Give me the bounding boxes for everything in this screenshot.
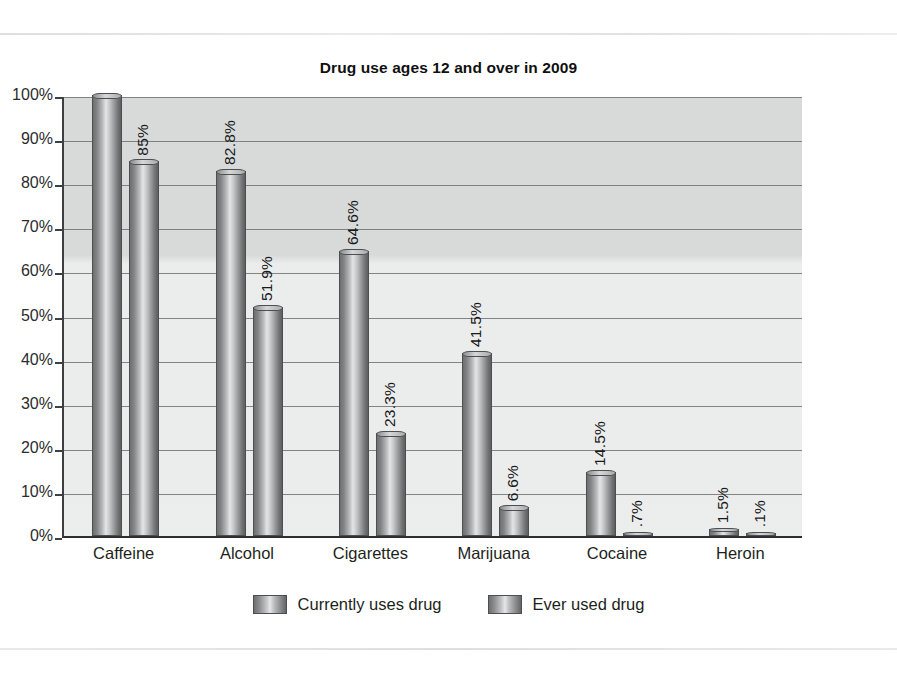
gridline — [64, 229, 802, 230]
y-axis-tick — [55, 362, 62, 364]
bar-value-label: 85% — [134, 124, 152, 156]
chart-title: Drug use ages 12 and over in 2009 — [0, 59, 897, 77]
bar — [376, 433, 406, 536]
y-axis-tick — [55, 318, 62, 320]
bar-cap — [253, 305, 283, 311]
bar-cap — [462, 351, 492, 357]
page-rule-top — [0, 33, 897, 35]
bar — [129, 161, 159, 536]
y-axis-label: 100% — [0, 86, 53, 104]
y-axis-tick — [55, 450, 62, 452]
gridline — [64, 450, 802, 451]
y-axis-tick — [55, 273, 62, 275]
bar-cap — [376, 431, 406, 437]
bar-value-label: 64.6% — [344, 200, 362, 245]
y-axis-label: 60% — [0, 262, 53, 280]
bar-cap — [92, 93, 122, 99]
y-axis-tick — [55, 185, 62, 187]
legend-label: Currently uses drug — [298, 595, 442, 614]
gridline — [64, 141, 802, 142]
y-axis-tick — [55, 97, 62, 99]
bar-cap — [129, 159, 159, 165]
x-axis-label: Cocaine — [555, 544, 678, 563]
y-axis-tick — [55, 494, 62, 496]
bar — [499, 507, 529, 536]
y-axis-tick — [55, 406, 62, 408]
y-axis-label: 50% — [0, 307, 53, 325]
chart-legend: Currently uses drugEver used drug — [0, 595, 897, 614]
y-axis-tick — [55, 538, 62, 540]
legend-swatch-icon — [488, 595, 522, 614]
bar-cap — [709, 528, 739, 532]
bar-value-label: 14.5% — [591, 421, 609, 466]
y-axis-label: 0% — [0, 527, 53, 545]
plot-area: 85%82.8%51.9%64.6%23.3%41.5%6.6%14.5%.7%… — [62, 97, 802, 538]
x-axis-label: Cigarettes — [309, 544, 432, 563]
gridline — [64, 273, 802, 274]
y-axis-label: 20% — [0, 439, 53, 457]
bar-value-label: 82.8% — [221, 120, 239, 165]
y-axis-label: 30% — [0, 395, 53, 413]
y-axis-tick — [55, 229, 62, 231]
y-axis-tick — [55, 141, 62, 143]
legend-item[interactable]: Currently uses drug — [253, 595, 442, 614]
bar — [92, 95, 122, 536]
gridline — [64, 406, 802, 407]
bar — [253, 307, 283, 536]
bar — [623, 533, 653, 536]
bar-value-label: 23.3% — [381, 382, 399, 427]
legend-swatch-icon — [253, 595, 287, 614]
x-axis-label: Marijuana — [432, 544, 555, 563]
x-axis-label: Caffeine — [62, 544, 185, 563]
bar-value-label: 51.9% — [258, 256, 276, 301]
gridline — [64, 318, 802, 319]
y-axis-label: 90% — [0, 130, 53, 148]
gridline — [64, 185, 802, 186]
bar-cap — [499, 505, 529, 511]
bar — [216, 171, 246, 536]
bar-value-label: 1.5% — [714, 487, 732, 523]
page-rule-bottom — [0, 648, 897, 650]
bar-cap — [586, 470, 616, 476]
y-axis-label: 10% — [0, 483, 53, 501]
plot-background-tint — [64, 97, 802, 536]
x-axis-label: Alcohol — [185, 544, 308, 563]
gridline — [64, 494, 802, 495]
y-axis-label: 80% — [0, 174, 53, 192]
bar-cap — [216, 169, 246, 175]
bar — [746, 533, 776, 536]
bar-value-label: 6.6% — [504, 465, 522, 501]
bar-chart: Drug use ages 12 and over in 2009 85%82.… — [0, 40, 897, 645]
bar-value-label: .7% — [628, 500, 646, 527]
bar — [586, 472, 616, 536]
bar-cap — [746, 532, 776, 536]
legend-label: Ever used drug — [533, 595, 645, 614]
bar — [339, 251, 369, 536]
y-axis-label: 70% — [0, 218, 53, 236]
gridline — [64, 362, 802, 363]
bar — [462, 353, 492, 536]
bar-cap — [623, 532, 653, 536]
bar-value-label: 41.5% — [467, 302, 485, 347]
legend-item[interactable]: Ever used drug — [488, 595, 645, 614]
gridline — [64, 97, 802, 98]
bar-value-label: .1% — [751, 500, 769, 527]
x-axis-label: Heroin — [679, 544, 802, 563]
bar — [709, 529, 739, 536]
bar-cap — [339, 249, 369, 255]
y-axis-label: 40% — [0, 351, 53, 369]
